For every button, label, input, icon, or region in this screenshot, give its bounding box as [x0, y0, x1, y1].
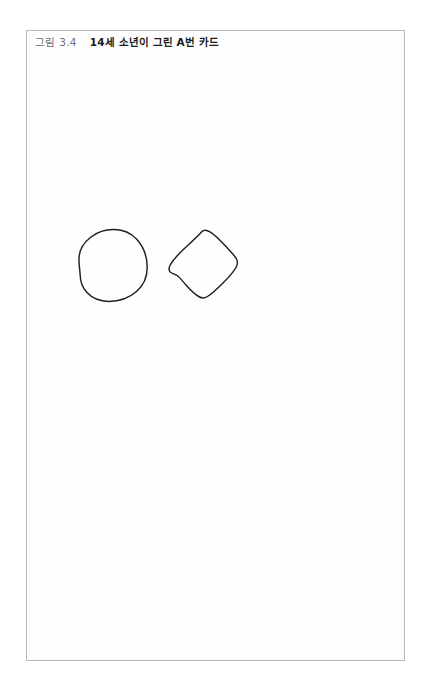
hand-drawn-circle-shape — [79, 229, 147, 301]
figure-caption-label: 그림 3.4 — [35, 36, 77, 48]
clipped-header-text-content: . — [14, 0, 17, 2]
figure-caption: 그림 3.414세 소년이 그린 A번 카드 — [35, 35, 219, 49]
clipped-header-text: . — [14, 0, 214, 6]
hand-drawn-diamond-shape — [169, 230, 237, 298]
figure-drawing-area — [27, 31, 406, 662]
figure-caption-title: 14세 소년이 그린 A번 카드 — [90, 36, 219, 48]
figure-box: 그림 3.414세 소년이 그린 A번 카드 — [26, 30, 405, 661]
hand-drawing-canvas — [27, 31, 406, 662]
